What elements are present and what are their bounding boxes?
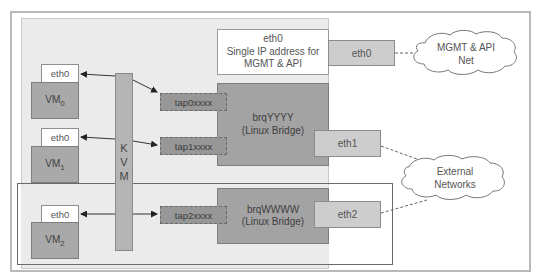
bridge-brqWWWW: brqWWWW (Linux Bridge) (217, 188, 329, 244)
vm-2: VM2 (31, 222, 79, 259)
vm-label: VM0 (45, 94, 64, 108)
vm-index: 0 (60, 99, 64, 108)
vm-name: VM (45, 158, 60, 169)
host-nic-eth1: eth1 (314, 130, 381, 157)
host-nic-eth2: eth2 (314, 201, 381, 228)
external-networks-label: External Networks (408, 162, 502, 194)
bridge-type: (Linux Bridge) (242, 216, 304, 229)
bridge-brqYYYY: brqYYYY (Linux Bridge) (217, 83, 329, 166)
mgmt-api-net-label: MGMT & API Net (420, 38, 512, 70)
host-nic-eth1-label: eth1 (338, 138, 357, 149)
bridge-name: brqYYYY (252, 112, 293, 125)
tap-device-1: tap1xxxx (160, 137, 227, 155)
vm0-nic-eth0: eth0 (41, 64, 79, 83)
bridge-type: (Linux Bridge) (242, 125, 304, 138)
cloud-line: Networks (434, 178, 476, 191)
tap-device-2: tap2xxxx (160, 206, 227, 224)
vm-index: 1 (60, 163, 64, 172)
host-nic-eth2-label: eth2 (338, 209, 357, 220)
kvm-letter: K (120, 141, 127, 155)
vm-nic-label: eth0 (51, 209, 70, 220)
vm2-nic-eth0: eth0 (41, 205, 79, 223)
cloud-line: External (437, 165, 474, 178)
mgmt-line-3: MGMT & API (244, 58, 302, 71)
host-nic-eth0-label: eth0 (352, 48, 371, 59)
vm-name: VM (45, 94, 60, 105)
vm-nic-label: eth0 (51, 68, 70, 79)
host-mgmt-interface-box: eth0 Single IP address for MGMT & API (217, 29, 329, 75)
vm-nic-label: eth0 (51, 132, 70, 143)
tap-label: tap2xxxx (175, 210, 213, 221)
vm-0: VM0 (31, 82, 79, 119)
mgmt-line-2: Single IP address for (227, 46, 320, 59)
mgmt-line-1: eth0 (263, 33, 282, 46)
kvm-letter: M (119, 169, 128, 183)
vm-1: VM1 (31, 146, 79, 183)
cloud-line: MGMT & API (437, 41, 495, 54)
host-nic-eth0: eth0 (328, 40, 395, 66)
vm1-nic-eth0: eth0 (41, 128, 79, 147)
tap-label: tap1xxxx (175, 141, 213, 152)
bridge-name: brqWWWW (247, 204, 299, 217)
kvm-hypervisor-bar: K V M (115, 73, 133, 251)
tap-label: tap0xxxx (175, 97, 213, 108)
vm-name: VM (45, 234, 60, 245)
vm-label: VM1 (45, 158, 64, 172)
cloud-line: Net (458, 54, 474, 67)
kvm-letter: V (120, 155, 127, 169)
vm-index: 2 (60, 239, 64, 248)
vm-label: VM2 (45, 234, 64, 248)
tap-device-0: tap0xxxx (160, 93, 227, 111)
